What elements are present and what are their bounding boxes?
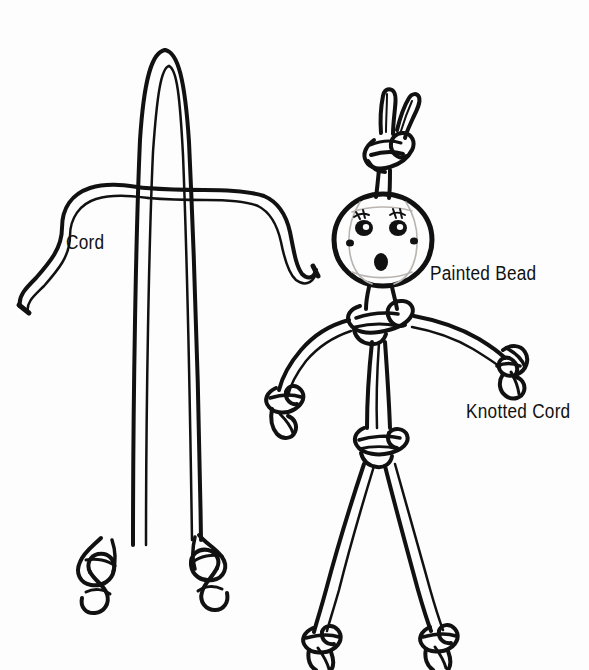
right-cheek-dot xyxy=(410,237,418,244)
label-painted-bead: Painted Bead xyxy=(430,262,536,285)
mouth xyxy=(374,253,388,271)
horizontal-cord xyxy=(19,185,318,313)
right-leg xyxy=(385,464,443,631)
overhand-knot-left-end xyxy=(78,538,115,613)
label-knotted-cord: Knotted Cord xyxy=(466,400,570,423)
right-arm xyxy=(412,316,505,367)
left-leg xyxy=(314,464,374,632)
left-cheek-dot xyxy=(346,239,354,246)
neck-knot xyxy=(348,287,413,344)
bead-face xyxy=(346,209,418,271)
folded-cord-bight xyxy=(133,50,201,545)
cord-tails-above-head xyxy=(381,89,420,138)
line-art-canvas: .ink { fill:none; stroke:#111111; stroke… xyxy=(0,0,589,670)
label-cord: Cord xyxy=(66,231,104,254)
left-arm xyxy=(279,320,351,396)
right-eye xyxy=(389,209,407,236)
illustration-page: .ink { fill:none; stroke:#111111; stroke… xyxy=(0,0,589,670)
overhand-knot-right-end xyxy=(191,535,228,610)
torso xyxy=(367,342,390,428)
right-foot-knot xyxy=(420,625,458,670)
waist-knot xyxy=(355,428,408,467)
step-2-doll xyxy=(266,89,527,670)
step-1-cords xyxy=(19,50,318,613)
left-foot-knot xyxy=(303,626,341,670)
left-eye xyxy=(354,210,373,236)
left-hand-knot xyxy=(266,386,303,438)
